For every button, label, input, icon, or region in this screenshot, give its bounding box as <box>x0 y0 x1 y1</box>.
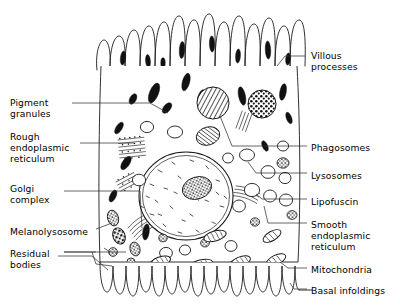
label-lysosomes: Lysosomes <box>311 170 362 181</box>
label-residual-bodies: Residual bodies <box>10 248 50 270</box>
label-mitochondria: Mitochondria <box>311 264 372 275</box>
cell-body <box>99 66 300 275</box>
label-villous-processes: Villous processes <box>311 50 358 72</box>
diagram-canvas: .ln{fill:none;stroke:#1a1a1a;stroke-widt… <box>0 0 400 307</box>
label-rough-endoplasmic-reticulum: Rough endoplasmic reticulum <box>10 131 69 164</box>
label-phagosomes: Phagosomes <box>311 142 370 153</box>
phagosome-hatched <box>197 87 229 119</box>
label-pigment-granules: Pigment granules <box>10 97 51 119</box>
label-smooth-endoplasmic-reticulum: Smooth endoplasmic reticulum <box>311 219 370 252</box>
label-melanolysosome: Melanolysosome <box>10 226 88 237</box>
label-golgi-complex: Golgi complex <box>10 183 50 205</box>
label-basal-infoldings: Basal infoldings <box>311 285 385 296</box>
phagosome-speckled <box>248 90 276 118</box>
label-lipofuscin: Lipofuscin <box>311 196 358 207</box>
